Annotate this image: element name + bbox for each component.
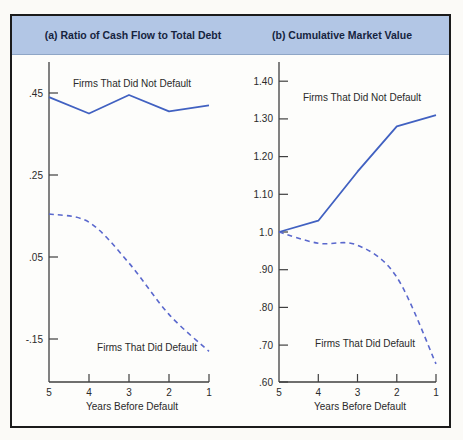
y-tick-label: 1.30 [254, 113, 274, 124]
x-tick-label: 5 [46, 387, 52, 398]
plots-canvas: .45.25.05-.1554321Years Before DefaultFi… [0, 0, 463, 440]
figure-page: (a) Ratio of Cash Flow to Total Debt (b)… [0, 0, 463, 440]
series-line-solid [49, 95, 209, 114]
y-tick-label: .80 [259, 302, 273, 313]
x-axis-title: Years Before Default [86, 401, 178, 412]
y-tick-label: 1.10 [254, 189, 274, 200]
x-axis-title: Years Before Default [314, 401, 406, 412]
y-tick-label: .45 [29, 88, 43, 99]
y-tick-label: -.15 [26, 334, 44, 345]
x-tick-label: 1 [206, 387, 212, 398]
series-line-dashed [49, 214, 209, 351]
series-line-solid [279, 115, 436, 232]
y-tick-label: 1.40 [254, 76, 274, 87]
x-tick-label: 3 [126, 387, 132, 398]
series-label: Firms That Did Not Default [73, 78, 191, 89]
y-tick-label: 1.0 [259, 227, 273, 238]
x-tick-label: 2 [394, 387, 400, 398]
series-label: Firms That Did Default [97, 342, 197, 353]
x-tick-label: 3 [355, 387, 361, 398]
x-tick-label: 1 [433, 387, 439, 398]
y-tick-label: 1.20 [254, 151, 274, 162]
y-tick-label: .60 [259, 377, 273, 388]
x-tick-label: 5 [276, 387, 282, 398]
y-tick-label: .90 [259, 264, 273, 275]
y-tick-label: .05 [29, 252, 43, 263]
series-label: Firms That Did Default [315, 338, 415, 349]
x-tick-label: 2 [166, 387, 172, 398]
y-tick-label: .70 [259, 340, 273, 351]
series-label: Firms That Did Not Default [303, 92, 421, 103]
x-tick-label: 4 [316, 387, 322, 398]
y-tick-label: .25 [29, 170, 43, 181]
x-tick-label: 4 [86, 387, 92, 398]
